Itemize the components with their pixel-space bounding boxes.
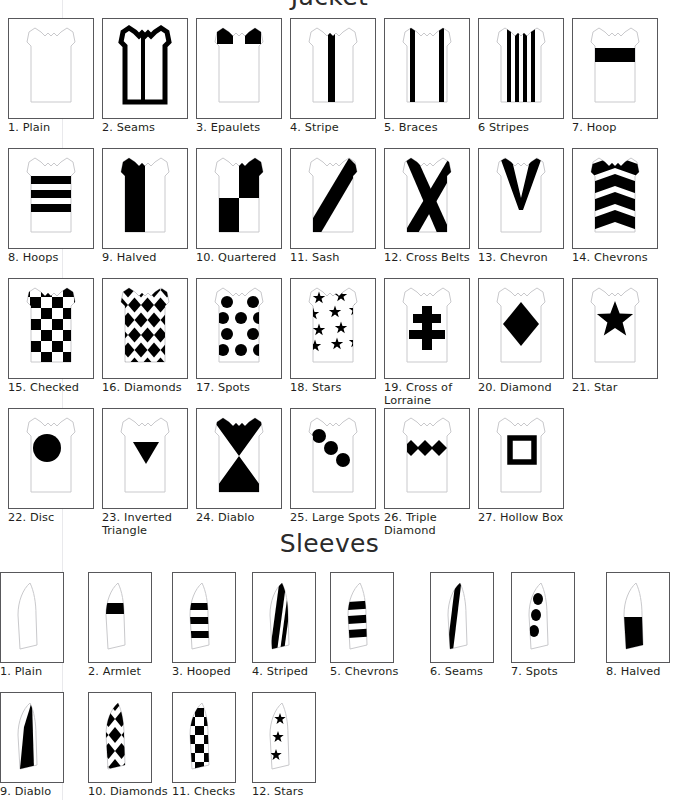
pattern-label: 12. Cross Belts xyxy=(384,252,488,265)
pattern-label: 23. Inverted Triangle xyxy=(102,512,206,537)
sleeve-s-striped-icon xyxy=(256,577,312,659)
scan-artifact-line xyxy=(62,0,63,800)
jacket-seams-icon xyxy=(109,24,181,116)
jacket-hoop-icon xyxy=(579,24,651,116)
jacket-chevrons-icon xyxy=(579,154,651,246)
pattern-label: 2. Armlet xyxy=(88,666,174,679)
sleeve-s-seams-icon xyxy=(434,577,490,659)
pattern-label: 10. Diamonds xyxy=(88,786,174,799)
pattern-label: 11. Sash xyxy=(290,252,394,265)
pattern-label: 5. Chevrons xyxy=(330,666,416,679)
pattern-label: 22. Disc xyxy=(8,512,112,525)
pattern-label: 13. Chevron xyxy=(478,252,582,265)
jacket-sash-icon xyxy=(297,154,369,246)
pattern-label: 6. Seams xyxy=(430,666,516,679)
pattern-label: 1. Plain xyxy=(8,122,112,135)
jacket-hoops-icon xyxy=(15,154,87,246)
jacket-stars-icon xyxy=(297,284,369,376)
pattern-label: 8. Hoops xyxy=(8,252,112,265)
pattern-label: 27. Hollow Box xyxy=(478,512,582,525)
jacket-triple-diamond-icon xyxy=(391,414,463,506)
pattern-label: 4. Striped xyxy=(252,666,338,679)
jacket-epaulets-icon xyxy=(203,24,275,116)
pattern-label: 11. Checks xyxy=(172,786,258,799)
pattern-label: 3. Epaulets xyxy=(196,122,300,135)
pattern-label: 9. Halved xyxy=(102,252,206,265)
pattern-label: 9. Diablo xyxy=(0,786,86,799)
jacket-diablo-icon xyxy=(203,414,275,506)
pattern-label: 7. Hoop xyxy=(572,122,674,135)
pattern-label: 6 Stripes xyxy=(478,122,582,135)
jacket-chevron-icon xyxy=(485,154,557,246)
pattern-label: 16. Diamonds xyxy=(102,382,206,395)
jacket-disc-icon xyxy=(15,414,87,506)
sleeves-section-title: Sleeves xyxy=(0,529,659,558)
jacket-inverted-triangle-icon xyxy=(109,414,181,506)
jacket-cross-belts-icon xyxy=(391,154,463,246)
pattern-label: 5. Braces xyxy=(384,122,488,135)
jacket-spots-icon xyxy=(203,284,275,376)
sleeve-s-plain-icon xyxy=(4,577,60,659)
jacket-section-title: Jacket xyxy=(0,0,659,11)
jacket-halved-icon xyxy=(109,154,181,246)
pattern-label: 21. Star xyxy=(572,382,674,395)
sleeve-s-stars-icon xyxy=(256,697,312,779)
pattern-label: 18. Stars xyxy=(290,382,394,395)
pattern-label: 8. Halved xyxy=(606,666,674,679)
pattern-label: 14. Chevrons xyxy=(572,252,674,265)
pattern-label: 4. Stripe xyxy=(290,122,394,135)
pattern-label: 10. Quartered xyxy=(196,252,300,265)
sleeve-s-diamonds-icon xyxy=(92,697,148,779)
jacket-plain-icon xyxy=(15,24,87,116)
jacket-diamonds-icon xyxy=(109,284,181,376)
sleeve-s-halved-icon xyxy=(610,577,666,659)
jacket-braces-icon xyxy=(391,24,463,116)
jacket-quartered-icon xyxy=(203,154,275,246)
pattern-label: 17. Spots xyxy=(196,382,300,395)
pattern-label: 12. Stars xyxy=(252,786,338,799)
sleeve-s-armlet-icon xyxy=(92,577,148,659)
jacket-stripes-icon xyxy=(485,24,557,116)
pattern-label: 19. Cross of Lorraine xyxy=(384,382,488,407)
pattern-label: 3. Hooped xyxy=(172,666,258,679)
sleeve-s-hooped-icon xyxy=(176,577,232,659)
pattern-label: 25. Large Spots xyxy=(290,512,394,525)
sleeve-s-spots-icon xyxy=(515,577,571,659)
jacket-hollow-box-icon xyxy=(485,414,557,506)
pattern-label: 7. Spots xyxy=(511,666,597,679)
jacket-diamond-icon xyxy=(485,284,557,376)
jacket-checked-icon xyxy=(15,284,87,376)
jacket-stripe-icon xyxy=(297,24,369,116)
pattern-label: 24. Diablo xyxy=(196,512,300,525)
pattern-label: 26. Triple Diamond xyxy=(384,512,488,537)
sleeve-s-chevrons-icon xyxy=(334,577,390,659)
pattern-label: 20. Diamond xyxy=(478,382,582,395)
sleeve-s-checks-icon xyxy=(176,697,232,779)
jacket-cross-of-lorraine-icon xyxy=(391,284,463,376)
pattern-label: 15. Checked xyxy=(8,382,112,395)
pattern-label: 1. Plain xyxy=(0,666,86,679)
pattern-label: 2. Seams xyxy=(102,122,206,135)
sleeve-s-diablo-icon xyxy=(4,697,60,779)
jacket-large-spots-icon xyxy=(297,414,369,506)
jacket-star-icon xyxy=(579,284,651,376)
